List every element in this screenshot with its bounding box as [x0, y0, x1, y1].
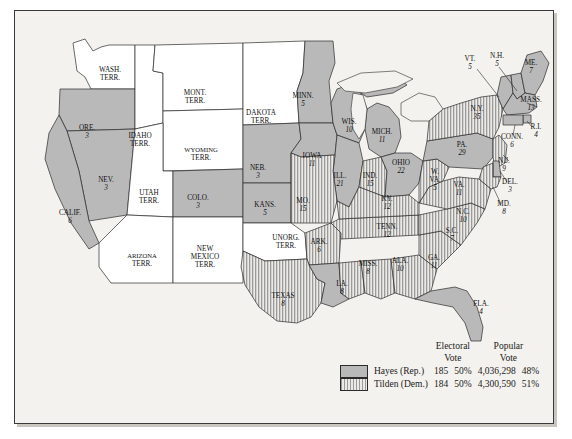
legend-hayes-electoral-votes: 185 — [431, 365, 451, 378]
state-electoral-votes: 6 — [510, 141, 514, 149]
legend-row-tilden: Tilden (Dem.) 184 50% 4,300,590 51% — [337, 378, 542, 391]
state-label: ARK. — [311, 238, 328, 246]
state-electoral-votes: 13 — [527, 104, 535, 112]
state-florida — [415, 287, 483, 341]
hayes-swatch-icon — [340, 365, 368, 378]
state-oregon — [59, 89, 135, 131]
state-label: MISS. — [359, 260, 378, 268]
state-label: MEXICO — [191, 253, 219, 261]
state-electoral-votes: 15 — [366, 180, 374, 188]
state-electoral-votes: 6 — [68, 217, 72, 225]
state-electoral-votes: 10 — [396, 265, 404, 273]
state-label: TERR. — [195, 261, 215, 269]
state-electoral-votes: 3 — [84, 132, 89, 140]
state-label: ME. — [525, 59, 538, 67]
state-label: IND. — [363, 172, 378, 180]
state-washington-territory — [73, 39, 135, 89]
legend-candidate-tilden: Tilden (Dem.) — [371, 378, 431, 391]
state-electoral-votes: 10 — [345, 126, 353, 134]
state-label: TERR. — [276, 242, 296, 250]
legend-header-popular-line1: Popular — [475, 341, 542, 353]
state-electoral-votes: 10 — [459, 216, 467, 224]
legend-candidate-hayes: Hayes (Rep.) — [371, 365, 431, 378]
state-label: PA. — [457, 141, 468, 149]
state-label: TERR. — [132, 260, 152, 268]
state-label: ALA. — [392, 257, 409, 265]
state-electoral-votes: 12 — [383, 231, 391, 239]
state-label: TERR. — [191, 154, 211, 162]
state-electoral-votes: 3 — [195, 202, 200, 210]
state-label: UTAH — [139, 189, 158, 197]
state-label: N.H. — [490, 52, 504, 60]
state-label: R.I. — [531, 123, 542, 131]
state-electoral-votes: 11 — [431, 262, 438, 270]
state-electoral-votes: 11 — [309, 160, 316, 168]
state-label: OHIO — [392, 159, 410, 167]
state-label: LA. — [336, 280, 348, 288]
state-label: FLA. — [473, 300, 489, 308]
state-electoral-votes: 3 — [103, 184, 108, 192]
state-electoral-votes: 5 — [301, 100, 305, 108]
map-legend: Electoral Popular Vote Vote Hayes (Rep.)… — [337, 341, 552, 401]
state-label: MD. — [497, 200, 511, 208]
state-label: TERR. — [251, 117, 271, 125]
state-label: S.C. — [446, 227, 459, 235]
state-label: CALIF. — [59, 209, 81, 217]
state-electoral-votes: 12 — [383, 203, 391, 211]
state-arizona-territory — [99, 215, 173, 283]
state-label: NEV. — [98, 176, 114, 184]
state-electoral-votes: 5 — [495, 60, 499, 68]
state-label: VA. — [429, 176, 440, 184]
legend-tilden-popular-pct: 51% — [519, 378, 542, 391]
state-electoral-votes: 11 — [456, 189, 463, 197]
state-electoral-votes: 7 — [529, 67, 533, 75]
state-electoral-votes: 5 — [468, 63, 472, 71]
state-label: UNORG. — [272, 234, 300, 242]
state-label: ILL. — [334, 172, 347, 180]
state-label: ARIZONA — [127, 252, 157, 259]
state-label: DEL. — [502, 178, 518, 186]
state-label: CONN. — [501, 133, 523, 141]
state-label: N.Y. — [470, 105, 483, 113]
state-wyoming-territory — [163, 109, 243, 171]
state-electoral-votes: 29 — [458, 149, 466, 157]
state-electoral-votes: 3 — [255, 172, 260, 180]
state-electoral-votes: 5 — [263, 209, 267, 217]
state-electoral-votes: 4 — [534, 131, 538, 139]
state-label: W. — [431, 168, 439, 176]
state-label: TEXAS — [271, 292, 294, 300]
state-label: MINN. — [293, 92, 314, 100]
state-electoral-votes: 35 — [472, 113, 481, 121]
state-label: TENN. — [377, 223, 398, 231]
state-label: N.J. — [498, 157, 510, 165]
state-label: DAKOTA — [246, 109, 277, 117]
legend-header-popular-line2: Vote — [475, 353, 542, 365]
state-label: IOWA — [303, 152, 323, 160]
legend-tilden-electoral-pct: 50% — [451, 378, 474, 391]
state-label: TERR. — [130, 140, 150, 148]
state-label: TERR. — [100, 74, 120, 82]
state-label: NEW — [197, 245, 214, 253]
state-electoral-votes: 6 — [317, 246, 321, 254]
state-electoral-votes: 3 — [507, 186, 512, 194]
state-electoral-votes: 8 — [502, 208, 506, 216]
legend-hayes-popular-pct: 48% — [519, 365, 542, 378]
state-label: WASH. — [99, 66, 121, 74]
state-label: TERR. — [185, 97, 205, 105]
legend-hayes-electoral-pct: 50% — [451, 365, 474, 378]
state-connecticut — [503, 115, 523, 125]
state-electoral-votes: 21 — [336, 180, 343, 188]
state-label: VT. — [465, 55, 476, 63]
legend-tilden-popular-votes: 4,300,590 — [475, 378, 519, 391]
map-frame: .hayes{fill:#b9b9b9;stroke:#2b2b2b;strok… — [14, 10, 554, 424]
state-label: KY. — [381, 195, 392, 203]
state-label: MICH. — [372, 128, 393, 136]
state-label: GA. — [428, 254, 440, 262]
leader-line-vt — [477, 69, 499, 97]
legend-tilden-electoral-votes: 184 — [431, 378, 451, 391]
state-electoral-votes: 15 — [299, 205, 307, 213]
state-label: IDAHO — [128, 132, 151, 140]
legend-header-electoral-line2: Vote — [431, 353, 475, 365]
state-electoral-votes: 8 — [281, 300, 285, 308]
state-label: TERR. — [139, 197, 159, 205]
